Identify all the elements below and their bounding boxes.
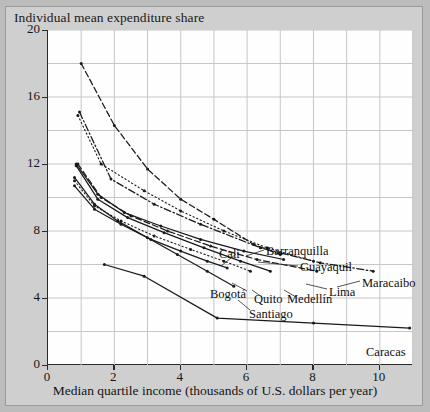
data-point — [179, 198, 182, 201]
data-point — [163, 231, 166, 234]
data-point — [209, 245, 212, 248]
data-point — [212, 218, 215, 221]
series-label-maracaibo: Maracaibo — [362, 276, 415, 291]
data-point — [249, 270, 252, 273]
x-tick-mark — [379, 365, 380, 370]
data-point — [269, 270, 272, 273]
data-point — [75, 164, 78, 167]
data-point — [93, 203, 96, 206]
data-point — [199, 238, 202, 241]
data-point — [100, 163, 103, 166]
data-point — [73, 176, 76, 179]
x-tick-mark — [312, 365, 313, 370]
data-point — [143, 275, 146, 278]
data-point — [143, 189, 146, 192]
y-tick-12: 12 — [6, 155, 40, 171]
y-tick-16: 16 — [6, 88, 40, 104]
data-point — [116, 219, 119, 222]
data-point — [259, 246, 262, 249]
data-point — [226, 266, 229, 269]
data-point — [242, 250, 245, 253]
data-point — [189, 248, 192, 251]
y-tick-8: 8 — [6, 222, 40, 238]
data-point — [206, 270, 209, 273]
figure-container: Individual mean expenditure share 048121… — [0, 0, 430, 412]
data-point — [80, 62, 83, 65]
data-point — [96, 198, 99, 201]
x-tick-mark — [47, 365, 48, 370]
x-tick-mark — [180, 365, 181, 370]
data-point — [159, 225, 162, 228]
data-point — [166, 230, 169, 233]
data-point — [179, 209, 182, 212]
plot-svg — [48, 30, 413, 365]
data-point — [312, 322, 315, 325]
data-point — [256, 258, 259, 261]
data-point — [206, 260, 209, 263]
data-point — [179, 250, 182, 253]
x-tick-mark — [246, 365, 247, 370]
plot-area — [47, 30, 412, 365]
data-point — [126, 216, 129, 219]
data-point — [176, 253, 179, 256]
data-point — [408, 327, 411, 330]
data-point — [78, 111, 81, 114]
data-point — [146, 236, 149, 239]
data-point — [203, 246, 206, 249]
series-label-santiago: Santiago — [249, 307, 293, 322]
series-label-quito: Quito — [254, 292, 282, 307]
series-label-guayaquil: Guayaquil — [300, 260, 352, 275]
series-label-medellin: Medellín — [287, 292, 332, 307]
data-point — [153, 235, 156, 238]
data-point — [73, 184, 76, 187]
data-point — [153, 203, 156, 206]
data-point — [146, 168, 149, 171]
y-tick-4: 4 — [6, 289, 40, 305]
data-point — [110, 178, 113, 181]
data-point — [199, 223, 202, 226]
data-point — [100, 196, 103, 199]
y-tick-20: 20 — [6, 21, 40, 37]
data-point — [103, 263, 106, 266]
y-axis-title: Individual mean expenditure share — [14, 10, 204, 26]
data-point — [216, 317, 219, 320]
data-point — [130, 214, 133, 217]
data-point — [113, 124, 116, 127]
series-label-bogota: Bogotá — [210, 287, 246, 302]
x-tick-mark — [113, 365, 114, 370]
y-tick-mark — [42, 164, 47, 165]
x-axis-title: Median quartile income (thousands of U.S… — [0, 383, 430, 399]
data-point — [93, 208, 96, 211]
series-label-cali: Cali — [219, 247, 240, 262]
y-tick-mark — [42, 30, 47, 31]
series-label-barranquilla: Barranquilla — [266, 244, 328, 259]
data-point — [76, 114, 79, 117]
data-point — [372, 270, 375, 273]
series-label-lima: Lima — [329, 285, 355, 300]
y-tick-mark — [42, 97, 47, 98]
y-tick-mark — [42, 298, 47, 299]
data-point — [222, 230, 225, 233]
y-tick-mark — [42, 231, 47, 232]
series-label-caracas: Caracas — [366, 345, 406, 360]
series-line-guayaquil — [78, 115, 314, 261]
